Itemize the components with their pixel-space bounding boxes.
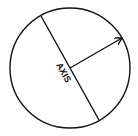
radius-arrow — [70, 38, 122, 68]
axis-label: AXIS — [54, 61, 73, 84]
diagram-canvas: AXIS — [0, 0, 138, 136]
circle-axis-diagram: AXIS — [0, 0, 138, 136]
